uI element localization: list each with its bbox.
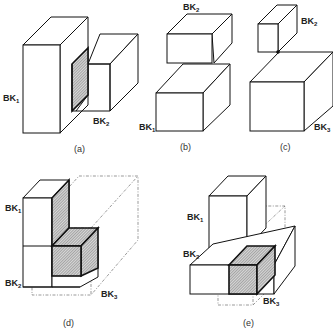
panel-d: BK1 BK2 BK3 (d) [5,176,138,328]
panel-c: BK2 BK3 (c) [250,5,333,152]
label-bk3: BK3 [263,296,280,307]
label-bk1: BK1 [139,122,156,133]
label-bk1: BK1 [3,93,20,104]
panel-e: BK1 BK2 BK3 (e) [183,176,295,328]
block-intersection-figure: BK1 BK2 (a) BK2 BK1 (b) BK2 [0,0,333,332]
block-bk2 [167,14,232,63]
label-bk1: BK1 [187,212,204,223]
block-bk2 [258,5,297,52]
label-bk2: BK2 [5,278,22,289]
label-bk2: BK2 [93,116,110,127]
label-bk3: BK3 [314,122,331,133]
label-bk2: BK2 [183,2,200,13]
caption-c: (c) [280,142,291,152]
label-bk2: BK2 [301,16,318,27]
block-bk3 [250,52,333,131]
label-bk1: BK1 [5,203,22,214]
intersection-bk1-bk2-bk3 [52,180,98,276]
caption-a: (a) [74,144,85,154]
caption-b: (b) [180,142,191,152]
caption-d: (d) [63,318,74,328]
label-bk3: BK3 [101,289,118,300]
panel-a: BK1 BK2 (a) [3,17,138,154]
block-bk1 [156,64,230,131]
panel-b: BK2 BK1 (b) [139,2,232,152]
contact-point [276,50,280,54]
label-bk2: BK2 [183,249,200,260]
caption-e: (e) [243,318,254,328]
